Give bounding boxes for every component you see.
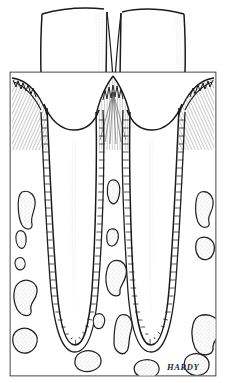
anatomical-figure: HARDY <box>0 0 226 383</box>
tooth-cross-section-illustration: HARDY <box>0 0 226 383</box>
artist-signature: HARDY <box>166 362 199 372</box>
